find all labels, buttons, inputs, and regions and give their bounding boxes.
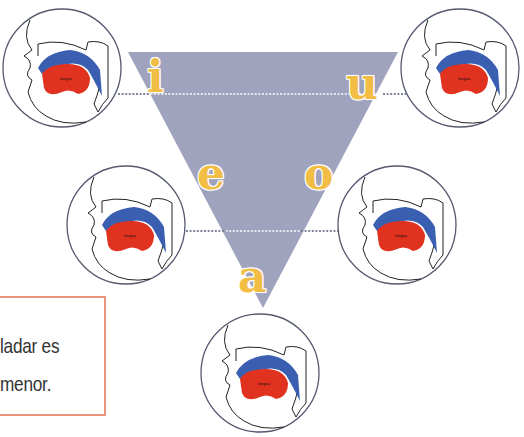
mouth-diagram-a <box>200 313 324 437</box>
note-line-1: ladar es <box>0 334 59 358</box>
note-box: ladar es menor. <box>0 296 106 416</box>
note-line-2: menor. <box>0 372 51 396</box>
vowel-e: e <box>197 152 225 196</box>
vowel-u: u <box>346 62 378 106</box>
mouth-diagram-i <box>2 8 124 130</box>
mouth-diagram-e <box>66 165 190 289</box>
mouth-diagram-u <box>400 8 522 130</box>
vowel-a: a <box>238 255 267 299</box>
mouth-diagram-o <box>337 165 461 289</box>
vowel-o: o <box>304 152 333 196</box>
vowel-i: i <box>147 55 164 99</box>
